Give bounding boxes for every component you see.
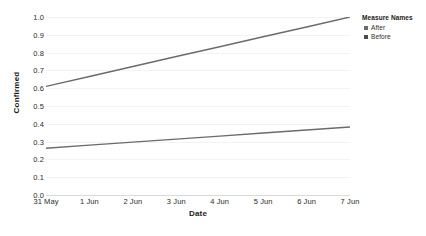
legend-items: AfterBefore (362, 24, 424, 40)
x-axis-tick: 6 Jun (297, 197, 316, 206)
legend-swatch-icon (364, 26, 368, 30)
y-axis-tick: 0.1 (33, 173, 44, 182)
x-axis-tick-labels: 31 May1 Jun2 Jun3 Jun4 Jun5 Jun6 Jun7 Ju… (46, 197, 350, 209)
x-axis-title: Date (46, 209, 350, 218)
y-axis-tick: 1.0 (33, 13, 44, 22)
y-axis-tick: 0.6 (33, 84, 44, 93)
legend: Measure Names AfterBefore (362, 14, 424, 42)
series-line (46, 17, 350, 86)
y-axis-tick-labels: 0.00.10.20.30.40.50.60.70.80.91.0 (14, 17, 44, 195)
legend-title: Measure Names (362, 14, 424, 21)
legend-item-label: Before (371, 33, 391, 40)
legend-item[interactable]: Before (362, 33, 424, 40)
plot-area (46, 17, 350, 195)
chart-container: Confirmed 0.00.10.20.30.40.50.60.70.80.9… (0, 0, 426, 236)
gridline (46, 195, 350, 196)
x-axis-tick: 5 Jun (254, 197, 273, 206)
x-axis-tick: 2 Jun (123, 197, 142, 206)
y-axis-tick: 0.4 (33, 119, 44, 128)
legend-item[interactable]: After (362, 24, 424, 31)
x-axis-tick: 4 Jun (210, 197, 229, 206)
y-axis-tick: 0.8 (33, 48, 44, 57)
x-axis-tick: 1 Jun (80, 197, 99, 206)
legend-swatch-icon (364, 35, 368, 39)
x-axis-tick: 3 Jun (167, 197, 186, 206)
x-axis-tick: 7 Jun (341, 197, 360, 206)
legend-item-label: After (371, 24, 385, 31)
series-line (46, 127, 350, 148)
x-axis-tick: 31 May (33, 197, 58, 206)
y-axis-tick: 0.3 (33, 137, 44, 146)
y-axis-tick: 0.7 (33, 66, 44, 75)
y-axis-tick: 0.5 (33, 102, 44, 111)
series-layer (46, 17, 350, 195)
y-axis-tick: 0.2 (33, 155, 44, 164)
y-axis-tick: 0.9 (33, 30, 44, 39)
